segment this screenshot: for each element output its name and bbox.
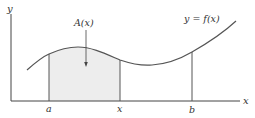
x-axis-label: x <box>243 95 249 106</box>
y-axis-label: y <box>6 3 13 14</box>
tick-label-a: a <box>46 103 52 114</box>
tick-label-x: x <box>117 103 123 114</box>
tick-label-b: b <box>189 104 195 115</box>
area-label: A(x) <box>73 17 94 28</box>
curve-label: y = f(x) <box>183 13 220 24</box>
area-function-diagram: y x y = f(x) A(x) a x b <box>0 0 255 118</box>
